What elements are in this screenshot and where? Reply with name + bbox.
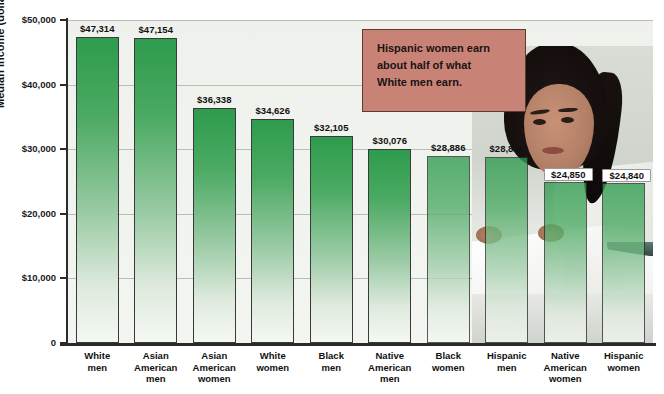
category-label-line: men bbox=[361, 373, 420, 385]
category-label-line: Asian bbox=[127, 350, 186, 362]
bar bbox=[427, 156, 470, 343]
bar-value-label: $36,338 bbox=[193, 94, 236, 105]
bar-value-label: $47,314 bbox=[76, 23, 119, 34]
x-axis-category-label: Blackwomen bbox=[419, 350, 478, 373]
category-label-line: men bbox=[478, 362, 537, 374]
annotation-callout: Hispanic women earn about half of what W… bbox=[362, 29, 526, 112]
bar-value-label: $34,626 bbox=[251, 105, 294, 116]
category-label-line: Hispanic bbox=[595, 350, 654, 362]
category-label-line: Native bbox=[536, 350, 595, 362]
category-label-line: American bbox=[127, 362, 186, 374]
category-label-line: men bbox=[68, 362, 127, 374]
category-label-line: women bbox=[419, 362, 478, 374]
category-label-line: American bbox=[185, 362, 244, 374]
category-label-line: women bbox=[595, 362, 654, 374]
category-label-line: Black bbox=[419, 350, 478, 362]
y-axis-line bbox=[66, 18, 68, 345]
category-label-line: women bbox=[185, 373, 244, 385]
category-label-line: women bbox=[244, 362, 303, 374]
x-axis-category-label: NativeAmericanwomen bbox=[536, 350, 595, 385]
x-axis-category-label: NativeAmericanmen bbox=[361, 350, 420, 385]
category-label-line: Asian bbox=[185, 350, 244, 362]
bar bbox=[193, 108, 236, 343]
bar bbox=[310, 136, 353, 343]
x-axis-category-label: Hispanicmen bbox=[478, 350, 537, 373]
category-label-line: American bbox=[361, 362, 420, 374]
x-axis-category-label: Whitemen bbox=[68, 350, 127, 373]
category-label-line: American bbox=[536, 362, 595, 374]
bar-value-label: $32,105 bbox=[310, 122, 353, 133]
gridline bbox=[68, 20, 653, 21]
bar-value-label: $24,840 bbox=[602, 169, 651, 182]
category-label-line: men bbox=[302, 362, 361, 374]
annotation-line-3: White men earn. bbox=[377, 74, 525, 91]
bar-value-label: $47,154 bbox=[134, 24, 177, 35]
x-axis-line bbox=[60, 343, 656, 346]
category-label-line: White bbox=[244, 350, 303, 362]
bar bbox=[544, 182, 587, 343]
bar-value-label: $30,076 bbox=[368, 135, 411, 146]
bar bbox=[251, 119, 294, 343]
category-label-line: Hispanic bbox=[478, 350, 537, 362]
bar bbox=[134, 38, 177, 343]
x-axis-category-label: AsianAmericanmen bbox=[127, 350, 186, 385]
bar-value-label: $28,886 bbox=[427, 142, 470, 153]
category-label-line: Black bbox=[302, 350, 361, 362]
category-label-line: White bbox=[68, 350, 127, 362]
category-label-line: men bbox=[127, 373, 186, 385]
y-tick-label: 0 bbox=[2, 337, 56, 348]
bar bbox=[485, 157, 528, 343]
bar bbox=[368, 149, 411, 343]
chart-figure: Median income (dollars) 0$10,000$20,000$… bbox=[0, 0, 664, 394]
y-tick-label: $50,000 bbox=[2, 14, 56, 25]
y-tick-label: $40,000 bbox=[2, 79, 56, 90]
category-label-line: Native bbox=[361, 350, 420, 362]
y-tick-label: $20,000 bbox=[2, 208, 56, 219]
x-axis-category-label: AsianAmericanwomen bbox=[185, 350, 244, 385]
y-tick-label: $30,000 bbox=[2, 143, 56, 154]
plot-area bbox=[68, 20, 653, 343]
bar bbox=[76, 37, 119, 343]
y-tick-label: $10,000 bbox=[2, 272, 56, 283]
bar bbox=[602, 183, 645, 343]
bar-value-label: $28,830 bbox=[485, 143, 528, 154]
annotation-line-2: about half of what bbox=[377, 57, 525, 74]
x-axis-category-label: Blackmen bbox=[302, 350, 361, 373]
x-axis-category-label: Whitewomen bbox=[244, 350, 303, 373]
category-label-line: women bbox=[536, 373, 595, 385]
x-axis-category-label: Hispanicwomen bbox=[595, 350, 654, 373]
bar-value-label: $24,850 bbox=[544, 168, 593, 181]
annotation-line-1: Hispanic women earn bbox=[377, 40, 525, 57]
